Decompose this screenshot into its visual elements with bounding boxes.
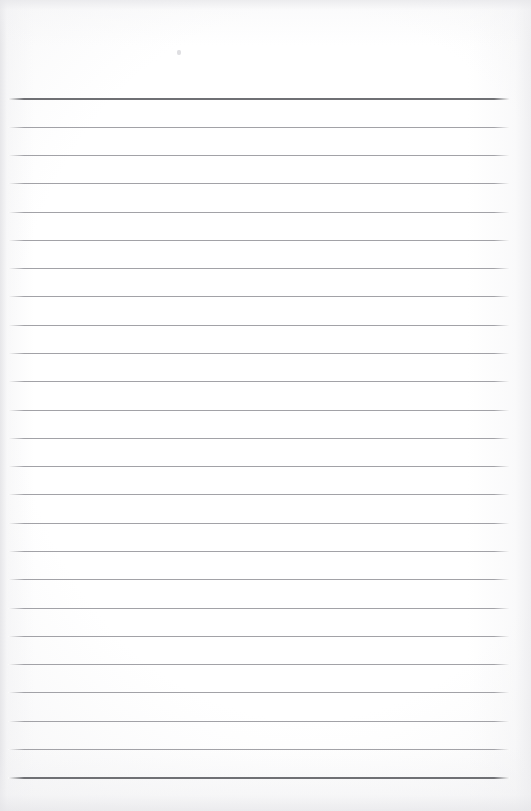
paper-background: [0, 0, 531, 811]
scanned-page: [0, 0, 531, 811]
